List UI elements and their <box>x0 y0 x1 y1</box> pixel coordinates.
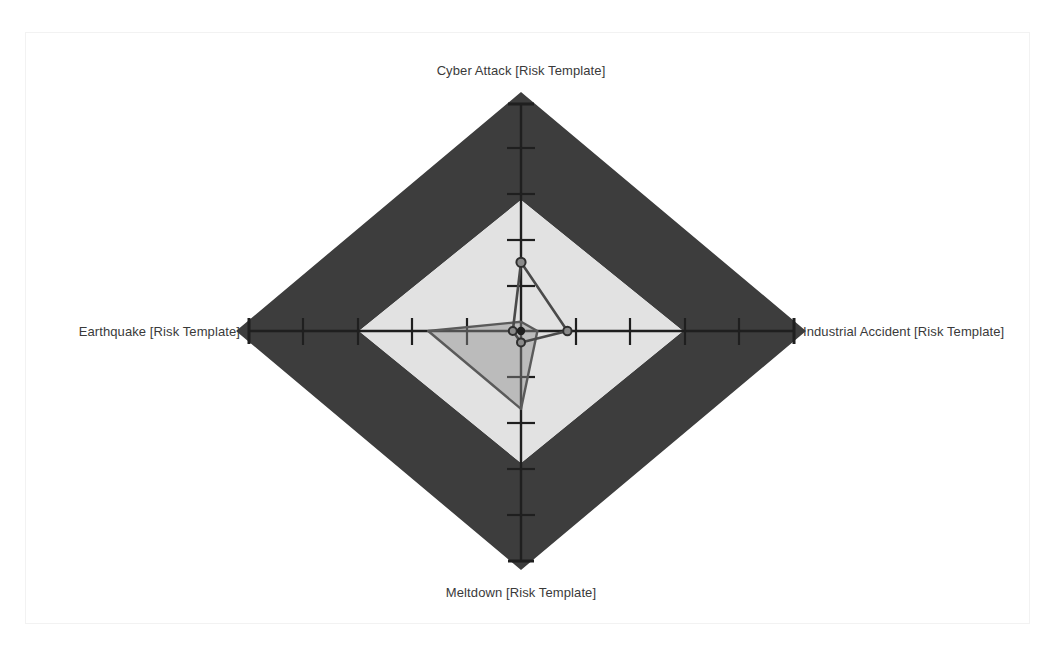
series-1-point-left <box>509 327 517 335</box>
radar-chart-container: Cyber Attack [Risk Template] Industrial … <box>0 0 1055 654</box>
series-1-point-right <box>563 327 571 335</box>
axis-label-meltdown: Meltdown [Risk Template] <box>446 585 596 600</box>
series-1-point-top <box>516 258 525 267</box>
axis-label-cyber-attack: Cyber Attack [Risk Template] <box>437 63 606 78</box>
axis-label-earthquake: Earthquake [Risk Template] <box>79 324 240 339</box>
series-1-point-bottom <box>517 338 525 346</box>
axis-label-industrial-accident: Industrial Accident [Risk Template] <box>803 324 1004 339</box>
origin-marker <box>517 327 525 335</box>
